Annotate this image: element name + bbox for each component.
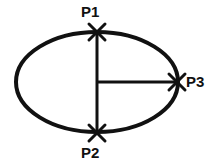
- ellipse-diagram: P1 P2 P3: [0, 0, 221, 167]
- point-label-p2: P2: [81, 145, 99, 160]
- point-label-p3: P3: [186, 74, 204, 89]
- point-label-p1: P1: [81, 4, 99, 19]
